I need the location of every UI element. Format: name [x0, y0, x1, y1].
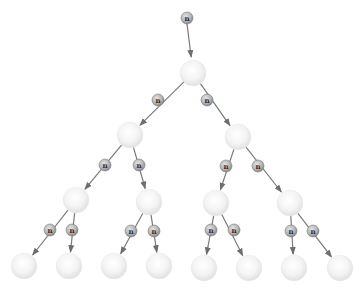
edge-label-text: n [288, 227, 293, 236]
edges-layer [33, 24, 332, 257]
edge-label-LR-LRL: n [125, 225, 137, 237]
edge-label-text: n [151, 227, 156, 236]
edge-label-R-RR: n [252, 160, 264, 172]
edge-label-root-R: n [201, 94, 213, 106]
tree-node-LLR [56, 253, 82, 279]
tree-node-RRL [281, 255, 307, 281]
edge-label-text: n [184, 14, 189, 23]
edge-label-text: n [136, 161, 141, 170]
edge-label-RL-RLR: n [228, 224, 240, 236]
tree-node-LRL [101, 253, 127, 279]
tree-node-RR [277, 190, 303, 216]
edge-label-L-LL: n [99, 159, 111, 171]
edge-label-L-LR: n [133, 159, 145, 171]
tree-node-LRR [146, 253, 172, 279]
edge-label-RR-RRR: n [307, 225, 319, 237]
edge-label-text: n [102, 161, 107, 170]
edge-label-text: n [69, 226, 74, 235]
tree-node-LR [136, 189, 162, 215]
binary-tree-diagram: nnnnnnnnnnnnnnn [0, 0, 362, 290]
edge-label-LR-LRR: n [148, 225, 160, 237]
edge-label-text: n [310, 227, 315, 236]
tree-node-R [225, 124, 251, 150]
edge-label-text: n [47, 226, 52, 235]
tree-node-L [117, 122, 143, 148]
edge-label-R-RL: n [220, 160, 232, 172]
edge-label-text: n [208, 226, 213, 235]
input-arrow [187, 24, 191, 57]
tree-node-root [180, 60, 206, 86]
tree-node-RL [203, 190, 229, 216]
edge-label-text: n [255, 162, 260, 171]
edge-label-text: n [204, 96, 209, 105]
tree-node-RRR [327, 255, 353, 281]
tree-node-LL [63, 187, 89, 213]
edge-label-LL-LLR: n [66, 224, 78, 236]
edge-label-LL-LLL: n [44, 224, 56, 236]
edge-label-text: n [155, 96, 160, 105]
edge-label-text: n [231, 226, 236, 235]
edge-label-RR-RRL: n [285, 225, 297, 237]
edge-label-root-L: n [152, 94, 164, 106]
tree-node-RLL [191, 255, 217, 281]
nodes-layer [11, 60, 353, 281]
edge-label-text: n [223, 162, 228, 171]
tree-node-LLL [11, 253, 37, 279]
tree-node-RLR [236, 255, 262, 281]
edge-label-text: n [128, 227, 133, 236]
edge-label-RL-RLL: n [205, 224, 217, 236]
input-label: n [181, 12, 193, 24]
